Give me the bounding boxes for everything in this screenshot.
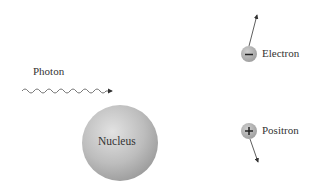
photon-wave [22, 89, 112, 93]
electron-trajectory-arrow [249, 15, 257, 46]
positron-trajectory-arrow [250, 139, 258, 162]
pair-production-diagram [0, 0, 319, 191]
photon-label: Photon [33, 65, 64, 77]
positron-label: Positron [262, 124, 299, 136]
nucleus-label: Nucleus [98, 135, 136, 147]
electron-label: Electron [262, 47, 299, 59]
